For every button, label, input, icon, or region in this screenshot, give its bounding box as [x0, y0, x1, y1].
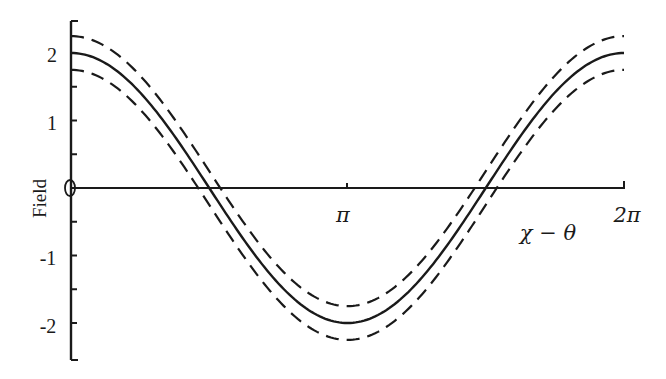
x-tick-label-2pi: 2π: [612, 203, 641, 227]
x-axis: [71, 181, 624, 189]
y-axis-label: Field: [29, 178, 50, 218]
y-tick-label-minus-2: -2: [40, 315, 57, 337]
upper-dashed-curve: [71, 36, 624, 306]
y-tick-label-minus-1: -1: [40, 247, 57, 269]
x-axis-label: χ − θ: [518, 221, 577, 245]
y-tick-label-1: 1: [47, 112, 57, 134]
y-tick-label-2: 2: [47, 44, 57, 66]
x-tick-label-pi: π: [335, 203, 351, 227]
field-chart: 2 1 -1 -2 π 2π χ − θ Field: [0, 0, 666, 379]
